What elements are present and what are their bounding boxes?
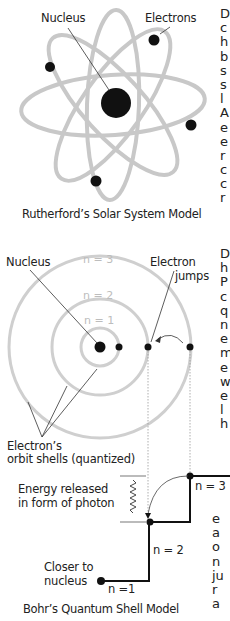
bohr-caption: Bohr’s Quantum Shell Model	[23, 602, 179, 616]
label-energy-1: Energy released	[18, 483, 108, 496]
photon-wave-icon	[130, 480, 136, 513]
level-n3-label: n = 3	[195, 480, 226, 493]
right-text-column-1: Dch bss lAe erc cr	[220, 7, 230, 206]
bohr-nucleus-icon	[95, 342, 106, 353]
shell-n2-label: n = 2	[83, 289, 113, 302]
level-n1-label: n =1	[108, 583, 135, 596]
shell-n3-label: n = 3	[83, 253, 113, 266]
right-text-column-3: eao njur a	[212, 512, 224, 611]
label-energy-2: in form of photon	[18, 497, 114, 510]
right-text-column-2: DhP cqn eme wel h	[220, 247, 230, 431]
jump-arrow-icon	[158, 335, 183, 343]
label-nucleus: Nucleus	[41, 12, 85, 25]
nucleus-icon	[101, 88, 131, 118]
photon-drop-arrow	[148, 476, 188, 514]
shell-n1-label: n = 1	[84, 314, 114, 327]
diagram-canvas	[0, 0, 230, 621]
label-closer-1: Closer to	[44, 561, 93, 574]
label-electron: Electron	[150, 256, 196, 269]
label-orbit-2: orbit shells (quantized)	[7, 453, 135, 466]
rutherford-caption: Rutherford’s Solar System Model	[22, 207, 201, 221]
bohr-label-nucleus: Nucleus	[6, 256, 50, 269]
level-n2-label: n = 2	[153, 544, 184, 557]
label-closer-2: nucleus	[44, 575, 87, 588]
label-electrons: Electrons	[145, 12, 196, 25]
bohr-electrons-icon	[116, 344, 194, 351]
label-jumps: jumps	[175, 270, 209, 283]
bohr-nucleus-pointer	[30, 270, 97, 343]
